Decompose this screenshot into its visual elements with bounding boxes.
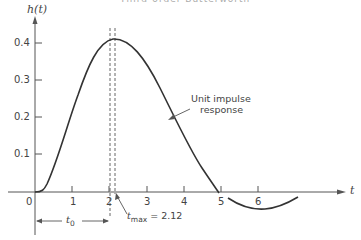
x-tick-label: 6 <box>255 197 261 207</box>
tmax-leader <box>117 196 127 214</box>
y-tick-label: 0.3 <box>14 75 30 85</box>
tmax-annotation: tmax = 2.12 <box>127 211 182 221</box>
t0-left-arrow-icon <box>36 219 42 224</box>
t0-sub: 0 <box>70 219 75 228</box>
impulse-response-curve <box>35 39 219 193</box>
y-ticks <box>35 43 42 154</box>
tmax-sub: max <box>131 215 147 224</box>
x-tick-label: 4 <box>181 197 187 207</box>
x-tick-label: 1 <box>70 197 76 207</box>
x-axis-arrow-icon <box>337 190 346 195</box>
curve-label-arrow-icon <box>168 114 175 120</box>
chart-figure: Third-order Butterworth <box>0 0 361 240</box>
x-tick-label: 3 <box>144 197 150 207</box>
x-ticks <box>72 186 258 192</box>
curve-annotation-line2: response <box>200 105 243 115</box>
y-tick-label: 0.2 <box>14 112 30 122</box>
tmax-arrow-icon <box>115 193 120 200</box>
x-tick-label: 5 <box>218 197 224 207</box>
y-tick-label: 0.4 <box>14 38 30 48</box>
t0-right-arrow-icon <box>103 219 109 224</box>
x-axis-label: t <box>350 185 354 196</box>
curve-annotation-line1: Unit impulse <box>191 94 251 104</box>
impulse-response-negative-lobe <box>228 197 298 209</box>
x-tick-label: 2 <box>106 197 112 207</box>
y-axis-label: h(t) <box>27 4 47 15</box>
tmax-value: = 2.12 <box>147 210 182 221</box>
x-tick-label: 0 <box>26 197 32 207</box>
t0-annotation: t0 <box>66 215 75 225</box>
y-tick-label: 0.1 <box>14 149 30 159</box>
y-axis-arrow-icon <box>33 16 38 24</box>
